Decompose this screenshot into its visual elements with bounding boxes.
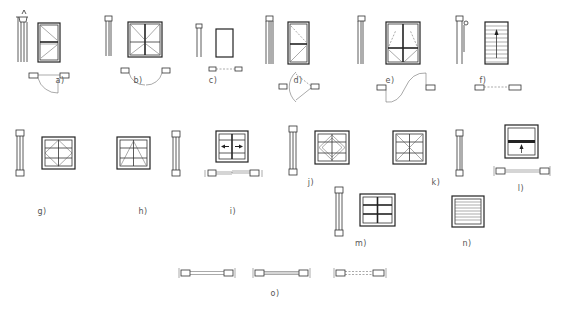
- elevation-a: [38, 23, 60, 62]
- elevation-f: [485, 22, 508, 64]
- label-c: c): [209, 76, 218, 85]
- elevation-m: [360, 194, 395, 226]
- plan-c: [209, 67, 242, 71]
- elevation-d: [288, 22, 309, 64]
- section-b: [105, 16, 112, 56]
- symbol-e: [358, 16, 435, 102]
- elevation-h: [117, 137, 150, 169]
- plan-o-1: [179, 268, 235, 278]
- label-f: f): [480, 76, 487, 85]
- symbol-n: [452, 196, 484, 227]
- label-o: o): [270, 289, 279, 298]
- elevation-l: [505, 125, 538, 158]
- arrow-right-icon: [235, 145, 243, 149]
- symbol-m: [335, 187, 395, 236]
- section-e: [358, 16, 365, 64]
- symbol-g: [16, 130, 75, 176]
- label-d: d): [293, 76, 302, 85]
- symbol-c: [196, 24, 242, 71]
- symbol-d: [266, 16, 319, 102]
- label-h: h): [138, 207, 147, 216]
- window-symbols-diagram: [0, 0, 563, 309]
- section-f: [456, 16, 468, 64]
- elevation-i: [216, 131, 248, 162]
- elevation-b: [128, 22, 162, 57]
- label-b: b): [133, 76, 142, 85]
- plan-f: [475, 85, 521, 90]
- section-m: [335, 187, 343, 236]
- plan-l: [494, 166, 550, 176]
- plan-b: [121, 68, 170, 85]
- symbol-o: [179, 268, 386, 278]
- section-h: [172, 131, 180, 176]
- label-k: k): [432, 178, 441, 187]
- label-a: a): [55, 76, 64, 85]
- section-c: [196, 24, 202, 57]
- elevation-n: [452, 196, 484, 227]
- symbol-j: [289, 126, 349, 175]
- elevation-e: [386, 22, 420, 64]
- plan-i: [205, 170, 262, 177]
- symbol-h: [117, 131, 180, 176]
- section-a: [16, 10, 28, 62]
- label-i: i): [230, 207, 236, 216]
- plan-o-2: [253, 268, 310, 278]
- symbol-k: [393, 130, 463, 176]
- arrow-left-icon: [221, 145, 229, 149]
- symbol-f: [456, 16, 521, 90]
- elevation-g: [42, 137, 75, 169]
- elevation-k: [393, 131, 426, 164]
- arrow-up-icon: [520, 144, 524, 149]
- label-l: l): [518, 184, 524, 193]
- symbol-b: [105, 16, 170, 85]
- symbol-l: [494, 125, 550, 176]
- label-m: m): [355, 239, 367, 248]
- elevation-c: [216, 29, 233, 57]
- label-n: n): [462, 239, 471, 248]
- elevation-j: [315, 131, 349, 164]
- section-j: [289, 126, 297, 175]
- symbol-i: [205, 131, 262, 177]
- section-k: [456, 130, 463, 176]
- label-j: j): [308, 178, 314, 187]
- plan-o-3: [334, 268, 386, 278]
- label-g: g): [37, 207, 46, 216]
- section-d: [266, 16, 273, 64]
- label-e: e): [385, 76, 394, 85]
- section-g: [16, 130, 24, 176]
